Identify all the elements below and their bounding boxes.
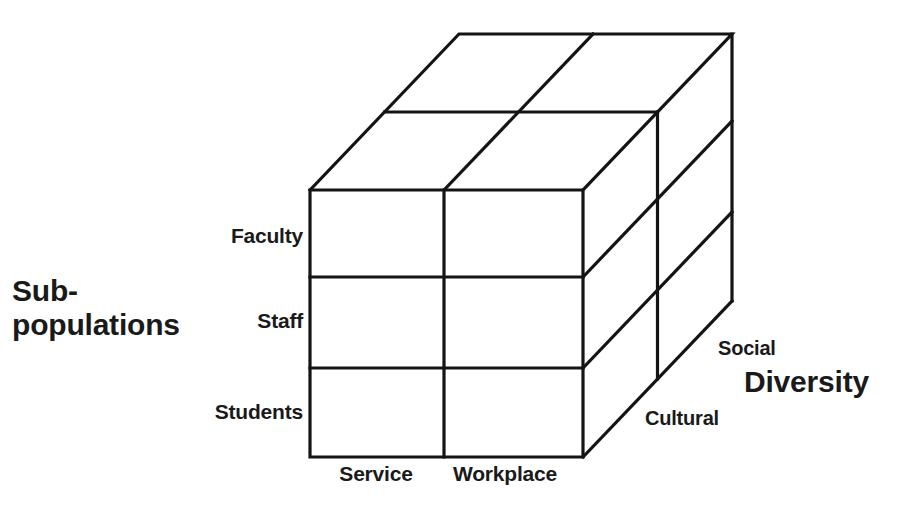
axis-title-subpopulations: Sub- populations bbox=[12, 274, 180, 342]
axis-title-subpopulations-line1: Sub- bbox=[12, 274, 180, 308]
column-label-service: Service bbox=[339, 462, 412, 486]
row-label-students: Students bbox=[215, 400, 303, 424]
column-label-workplace: Workplace bbox=[453, 462, 557, 486]
cube-diagram-svg bbox=[0, 0, 920, 521]
depth-label-cultural: Cultural bbox=[645, 407, 719, 430]
row-label-staff: Staff bbox=[257, 309, 303, 333]
axis-title-subpopulations-line2: populations bbox=[12, 308, 180, 342]
front-face bbox=[310, 190, 583, 457]
diagram-canvas: Sub- populations Faculty Staff Students … bbox=[0, 0, 920, 521]
depth-label-social: Social bbox=[718, 337, 776, 360]
cube-faces bbox=[310, 34, 732, 457]
row-label-faculty: Faculty bbox=[231, 224, 303, 248]
axis-title-diversity: Diversity bbox=[744, 365, 869, 399]
